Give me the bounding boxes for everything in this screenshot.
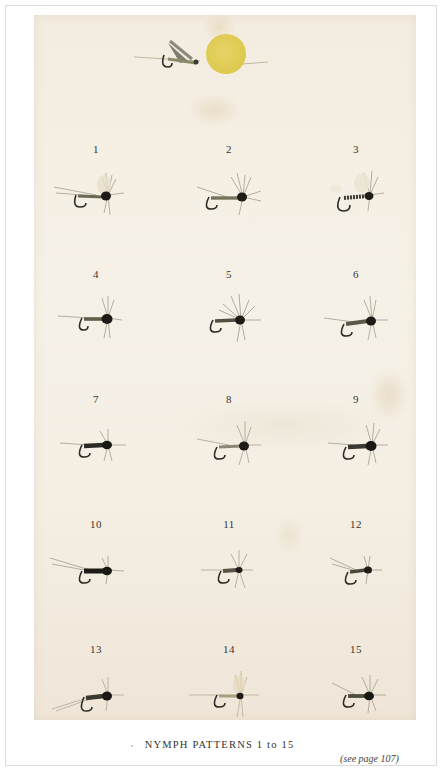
- nymph-fly-icon: [306, 409, 406, 469]
- nymph-fly-icon: [46, 284, 146, 344]
- fly-pattern-9: 9: [301, 393, 411, 473]
- frontispiece-fly: [130, 33, 270, 73]
- fly-pattern-3: 3: [301, 143, 411, 223]
- fly-number: 11: [174, 518, 284, 530]
- fly-number: 10: [41, 518, 151, 530]
- fly-number: 4: [41, 268, 151, 280]
- plate-caption-text: NYMPH PATTERNS 1 to 15: [145, 739, 295, 750]
- fly-number: 8: [174, 393, 284, 405]
- fly-pattern-15: 15: [301, 643, 411, 723]
- nymph-fly-icon: [179, 409, 279, 469]
- fly-number: 7: [41, 393, 151, 405]
- nymph-fly-icon: [179, 159, 279, 219]
- fly-number: 9: [301, 393, 411, 405]
- nymph-fly-icon: [179, 284, 279, 344]
- fly-pattern-11: 11: [174, 518, 284, 598]
- color-plate: 1 2 3: [34, 15, 416, 720]
- fly-pattern-14: 14: [174, 643, 284, 723]
- fly-pattern-10: 10: [41, 518, 151, 598]
- fly-pattern-8: 8: [174, 393, 284, 473]
- fly-pattern-13: 13: [41, 643, 151, 723]
- nymph-fly-icon: [46, 409, 146, 469]
- fly-number: 2: [174, 143, 284, 155]
- nymph-fly-icon: [306, 659, 406, 719]
- fly-number: 6: [301, 268, 411, 280]
- fly-pattern-1: 1: [41, 143, 151, 223]
- fly-pattern-2: 2: [174, 143, 284, 223]
- plate-caption: NYMPH PATTERNS 1 to 15: [0, 739, 445, 750]
- fly-number: 14: [174, 643, 284, 655]
- fly-pattern-6: 6: [301, 268, 411, 348]
- nymph-fly-icon: [306, 159, 406, 219]
- fly-pattern-12: 12: [301, 518, 411, 598]
- fly-number: 15: [301, 643, 411, 655]
- nymph-fly-icon: [46, 534, 146, 594]
- fly-pattern-5: 5: [174, 268, 284, 348]
- fly-pattern-4: 4: [41, 268, 151, 348]
- fly-pattern-7: 7: [41, 393, 151, 473]
- nymph-fly-icon: [306, 284, 406, 344]
- yellow-disc: [206, 34, 246, 74]
- nymph-fly-icon: [46, 159, 146, 219]
- fly-number: 1: [41, 143, 151, 155]
- fly-illustration-icon: [130, 33, 270, 73]
- nymph-fly-icon: [46, 659, 146, 719]
- nymph-fly-icon: [179, 534, 279, 594]
- page-reference: (see page 107): [340, 753, 399, 764]
- nymph-fly-icon: [179, 659, 279, 719]
- fly-number: 13: [41, 643, 151, 655]
- fly-number: 12: [301, 518, 411, 530]
- fly-number: 5: [174, 268, 284, 280]
- nymph-fly-icon: [306, 534, 406, 594]
- fly-number: 3: [301, 143, 411, 155]
